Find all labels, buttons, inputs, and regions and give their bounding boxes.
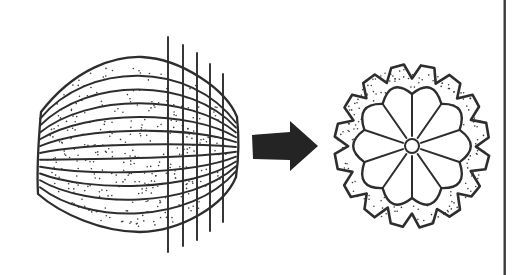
fruit-slicing-diagram [0, 0, 517, 275]
page-edge-line [504, 0, 506, 275]
arrow-right-icon [252, 121, 318, 171]
fruit-rib-lines [40, 76, 236, 214]
core-circle [405, 139, 419, 153]
illustration-canvas [0, 0, 517, 275]
whole-fruit-drawing [37, 57, 238, 232]
fruit-cross-section-drawing [335, 65, 489, 228]
